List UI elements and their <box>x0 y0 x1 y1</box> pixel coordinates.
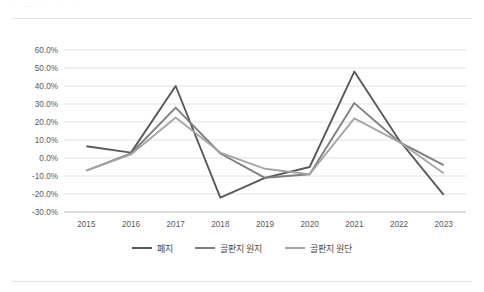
y-axis-tick-label: 30.0% <box>35 100 58 109</box>
x-axis-tick-label: 2022 <box>390 220 409 229</box>
legend-item[interactable]: 폐지 <box>132 242 173 255</box>
x-axis-tick-label: 2018 <box>211 220 230 229</box>
y-axis-tick-label: -10.0% <box>32 172 58 181</box>
x-axis-tick-label: 2021 <box>345 220 364 229</box>
chart-legend: 폐지골판지 원지골판지 원단 <box>0 238 484 258</box>
series-lines <box>86 72 443 198</box>
top-divider-rule <box>12 18 472 19</box>
x-axis-tick-label: 2015 <box>77 220 96 229</box>
x-axis-tick-label: 2017 <box>167 220 186 229</box>
y-axis-tick-label: 20.0% <box>35 118 58 127</box>
chart-page: · — · ·· · 60.0%50.0%40.0%30.0%20.0%10.0… <box>0 0 484 292</box>
x-axis-tick-label: 2016 <box>122 220 141 229</box>
legend-label: 골판지 원단 <box>310 242 353 255</box>
line-chart: 60.0%50.0%40.0%30.0%20.0%10.0%0.0%-10.0%… <box>0 22 484 274</box>
y-axis-tick-label: 10.0% <box>35 136 58 145</box>
legend-item[interactable]: 골판지 원단 <box>285 242 353 255</box>
y-axis-tick-label: 50.0% <box>35 64 58 73</box>
x-axis-tick-label: 2020 <box>301 220 320 229</box>
chart-svg: 60.0%50.0%40.0%30.0%20.0%10.0%0.0%-10.0%… <box>0 22 484 274</box>
y-axis-tick-label: 40.0% <box>35 82 58 91</box>
bottom-divider-rule <box>12 281 472 282</box>
x-axis-tick-labels: 201520162017201820192020202120222023 <box>77 220 453 229</box>
y-axis-tick-label: -30.0% <box>32 208 58 217</box>
legend-swatch-icon <box>195 247 215 249</box>
cropped-header-text: · — · ·· · <box>12 1 212 10</box>
y-axis-tick-label: 0.0% <box>39 154 58 163</box>
y-axis-tick-label: -20.0% <box>32 190 58 199</box>
x-axis-tick-label: 2019 <box>256 220 275 229</box>
legend-label: 골판지 원지 <box>220 242 263 255</box>
legend-label: 폐지 <box>157 242 173 255</box>
x-axis-tick-label: 2023 <box>435 220 454 229</box>
legend-swatch-icon <box>132 247 152 249</box>
gridlines <box>64 50 466 212</box>
y-axis-tick-label: 60.0% <box>35 46 58 55</box>
legend-item[interactable]: 골판지 원지 <box>195 242 263 255</box>
legend-swatch-icon <box>285 247 305 249</box>
y-axis-tick-labels: 60.0%50.0%40.0%30.0%20.0%10.0%0.0%-10.0%… <box>32 46 58 217</box>
